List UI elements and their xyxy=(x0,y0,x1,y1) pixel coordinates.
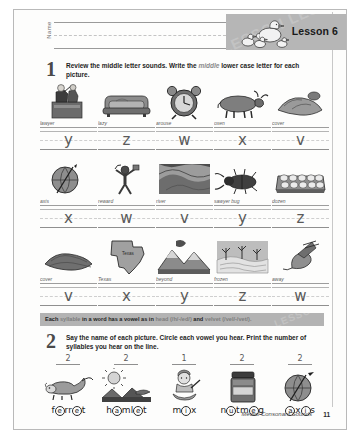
tip-phonics-velvet: (/vel/-/vet/). xyxy=(221,316,252,322)
syllable-count-line[interactable] xyxy=(230,364,254,365)
answer-letter: w xyxy=(98,209,155,227)
answer-slot[interactable]: x xyxy=(98,286,155,308)
picture-cell[interactable]: river v xyxy=(156,160,213,232)
word-letter: m xyxy=(172,405,181,415)
picture-cell[interactable]: away w xyxy=(272,238,329,310)
mountains-icon xyxy=(156,238,213,276)
axis-globe-icon xyxy=(274,368,327,404)
lesson-title: Lesson 6 xyxy=(292,25,338,37)
picture-cell[interactable]: lazy z xyxy=(98,82,155,154)
picture-cell[interactable]: oxen x xyxy=(214,82,271,154)
circled-vowel[interactable]: i xyxy=(181,406,191,416)
tip-text: Each syllable in a word has a vowel as i… xyxy=(45,316,320,322)
name-label: Name xyxy=(46,13,52,47)
frozen-lake-icon xyxy=(214,238,271,276)
picture-word: Texas xyxy=(98,276,155,284)
picture-cell[interactable]: arouse w xyxy=(156,82,213,154)
tip-middle: in a word has a vowel as in xyxy=(80,316,155,322)
circled-vowel[interactable]: u xyxy=(226,406,236,416)
tip-word-head: head xyxy=(155,316,168,322)
footer-page-number: 11 xyxy=(323,411,330,418)
name-line-top xyxy=(54,22,231,23)
answer-letter: y xyxy=(40,131,97,149)
syllable-count: 2 xyxy=(288,354,312,363)
picture-cell[interactable]: beyond y xyxy=(156,238,213,310)
circled-vowel[interactable]: a xyxy=(112,406,122,416)
answer-slot[interactable]: y xyxy=(40,130,97,152)
answer-slot[interactable]: v xyxy=(40,286,97,308)
syllable-cell[interactable]: 1 mix xyxy=(156,355,213,425)
lesson-banner: LESSON LESSON LESSON xyxy=(226,14,346,50)
tip-prefix: Each xyxy=(45,316,60,322)
answer-slot[interactable]: z xyxy=(272,208,329,230)
picture-row-2: axis x xyxy=(40,160,324,232)
section-1-number: 1 xyxy=(40,58,62,82)
syllable-cell[interactable]: 2 ferret xyxy=(40,355,97,425)
answer-letter: v xyxy=(272,131,329,149)
answer-letter: z xyxy=(272,209,329,227)
answer-line-baseline xyxy=(272,149,329,150)
worksheet-sheet: Name LESSON LESSON LESSON xyxy=(13,9,347,430)
answer-slot[interactable]: x xyxy=(40,208,97,230)
tip-word-velvet: velvet xyxy=(203,316,220,322)
picture-cell[interactable]: reward w xyxy=(98,160,155,232)
answer-slot[interactable]: w xyxy=(98,208,155,230)
answer-letter: x xyxy=(214,131,271,149)
oxen-icon xyxy=(214,82,271,120)
hamlet-icon xyxy=(100,368,153,404)
right-margin-rule xyxy=(332,12,333,407)
worksheet-page: Name LESSON LESSON LESSON xyxy=(0,0,360,442)
picture-word: sawyer bug xyxy=(214,198,271,206)
picture-cell[interactable]: axis x xyxy=(40,160,97,232)
syllable-count-line[interactable] xyxy=(114,364,138,365)
answer-slot[interactable]: y xyxy=(214,208,271,230)
name-block[interactable]: Name xyxy=(45,18,231,56)
picture-cell[interactable]: Texas Texas x xyxy=(98,238,155,310)
name-writing-lines[interactable] xyxy=(54,22,231,52)
answer-slot[interactable]: w xyxy=(272,286,329,308)
picture-cell[interactable]: sawyer bug y xyxy=(214,160,271,232)
picture-cell[interactable]: cover v xyxy=(40,238,97,310)
answer-slot[interactable]: z xyxy=(214,286,271,308)
answer-line-baseline xyxy=(40,149,97,150)
answer-letter: x xyxy=(40,209,97,227)
answer-line-baseline xyxy=(156,227,213,228)
word-letter: x xyxy=(191,405,197,415)
texas-map-icon: Texas xyxy=(98,238,155,276)
lawyer-icon xyxy=(40,82,97,120)
tip-banner: LESSON Each syllable in a word has a vow… xyxy=(40,313,324,326)
mix-icon xyxy=(158,368,211,404)
picture-cell[interactable]: dozen z xyxy=(272,160,329,232)
word-letter: m xyxy=(122,405,131,415)
syllable-count: 2 xyxy=(230,354,254,363)
picture-word: away xyxy=(272,276,329,284)
picture-word: beyond xyxy=(156,276,213,284)
answer-line-baseline xyxy=(214,305,271,306)
picture-row-1: lawyer y xyxy=(40,82,324,154)
answer-line-baseline xyxy=(214,227,271,228)
circled-vowel[interactable]: e xyxy=(133,406,143,416)
syllable-word: mix xyxy=(156,405,213,416)
nutmeg-jar-icon xyxy=(216,368,269,404)
answer-line-baseline xyxy=(98,305,155,306)
picture-cell[interactable]: lawyer y xyxy=(40,82,97,154)
answer-slot[interactable]: w xyxy=(156,130,213,152)
picture-word: reward xyxy=(98,198,155,206)
answer-slot[interactable]: x xyxy=(214,130,271,152)
syllable-cell[interactable]: 2 h xyxy=(98,355,155,425)
syllable-count: 2 xyxy=(56,354,80,363)
answer-line-baseline xyxy=(156,149,213,150)
answer-slot[interactable]: y xyxy=(156,286,213,308)
syllable-count-line[interactable] xyxy=(288,364,312,365)
picture-cell[interactable]: cover v xyxy=(272,82,329,154)
word-letter: t xyxy=(143,405,147,415)
picture-word: cover xyxy=(272,120,329,128)
answer-slot[interactable]: z xyxy=(98,130,155,152)
circled-vowel[interactable]: e xyxy=(72,406,82,416)
footer-title: Medial Consonant Sounds xyxy=(242,411,312,417)
syllable-count-line[interactable] xyxy=(56,364,80,365)
syllable-count-line[interactable] xyxy=(172,364,196,365)
picture-cell[interactable]: frozen z xyxy=(214,238,271,310)
answer-slot[interactable]: v xyxy=(272,130,329,152)
answer-slot[interactable]: v xyxy=(156,208,213,230)
